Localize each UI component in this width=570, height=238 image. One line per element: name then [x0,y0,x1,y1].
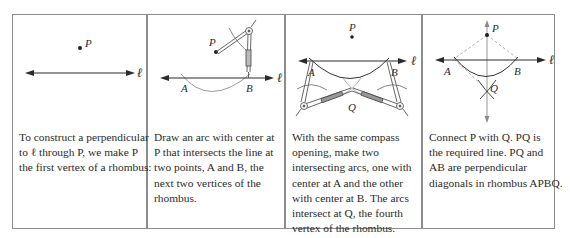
caption-line: the first vertex of a rhombus: [19,160,152,175]
arrow-right-icon [537,57,546,63]
arrow-up-icon [485,20,490,27]
label-ell: ℓ [411,53,417,68]
step-2-caption: Draw an arc with center at P that inters… [154,130,275,206]
caption-line: with center at B. The arcs [292,191,412,206]
label-ell: ℓ [137,65,143,80]
label-b: B [246,82,253,94]
label-p: P [348,21,356,33]
arrow-right-icon [398,58,407,64]
arrow-left-icon [298,58,307,64]
caption-line: vertex of the rhombus. [292,221,412,236]
step-3-diagram: P ℓ A B Q [285,14,422,134]
arrow-left-icon [160,75,169,81]
label-ell: ℓ [549,52,555,67]
compass-right-icon [352,62,408,116]
caption-line: diagonals in rhombus APBQ. [429,176,563,191]
step-2-diagram: ℓ A B P [147,14,285,134]
caption-line: rhombus. [154,191,275,206]
label-p: P [208,36,216,48]
panel-step-1: P ℓ To construct a perpendicular to ℓ th… [12,14,147,229]
label-a: A [443,65,451,77]
arc-from-b [343,78,361,94]
step-1-caption: To construct a perpendicular to ℓ throug… [19,130,152,176]
caption-line: To construct a perpendicular [19,130,152,145]
caption-line: intersect at Q, the fourth [292,206,412,221]
caption-line: next two vertices of the [154,176,275,191]
arrow-down-icon [485,116,490,123]
caption-line: P that intersects the line at [154,145,275,160]
caption-line: opening, make two [292,145,412,160]
label-q: Q [348,101,356,113]
caption-line: Draw an arc with center at [154,130,275,145]
step-4-diagram: P ℓ A B Q [422,14,556,134]
label-q: Q [490,82,498,94]
arc-from-a [343,78,361,94]
step-1-diagram: P ℓ [12,14,147,134]
arrow-left-icon [435,57,444,63]
point-p-dot [78,46,82,50]
label-ell: ℓ [277,70,283,85]
label-b: B [514,65,521,77]
caption-line: center at A and the other [292,176,412,191]
label-p: P [491,22,499,34]
caption-line: Connect P with Q. PQ is [429,130,563,145]
panel-step-2: ℓ A B P Draw an arc with center at P tha… [147,14,285,229]
point-p-dot [350,35,354,39]
caption-line: AB are perpendicular [429,160,563,175]
caption-line: to ℓ through P, we make P [19,145,152,160]
point-p-dot [485,33,489,37]
step-4-caption: Connect P with Q. PQ is the required lin… [429,130,563,191]
arrow-right-icon [265,75,274,81]
panel-step-3: P ℓ A B Q [285,14,422,229]
label-a: A [180,82,188,94]
side-pb [487,35,518,59]
side-pa [454,35,487,59]
compass-icon [216,20,256,78]
caption-line: two points, A and B, the [154,160,275,175]
caption-line: the required line. PQ and [429,145,563,160]
arrow-left-icon [25,70,34,76]
panel-step-4: P ℓ A B Q Connect P with Q. PQ is the re… [422,14,556,229]
arrow-right-icon [126,70,135,76]
step-3-caption: With the same compass opening, make two … [292,130,412,236]
label-p: P [84,37,92,49]
arc-ab [181,74,250,92]
caption-line: intersecting arcs, one with [292,160,412,175]
caption-line: With the same compass [292,130,412,145]
